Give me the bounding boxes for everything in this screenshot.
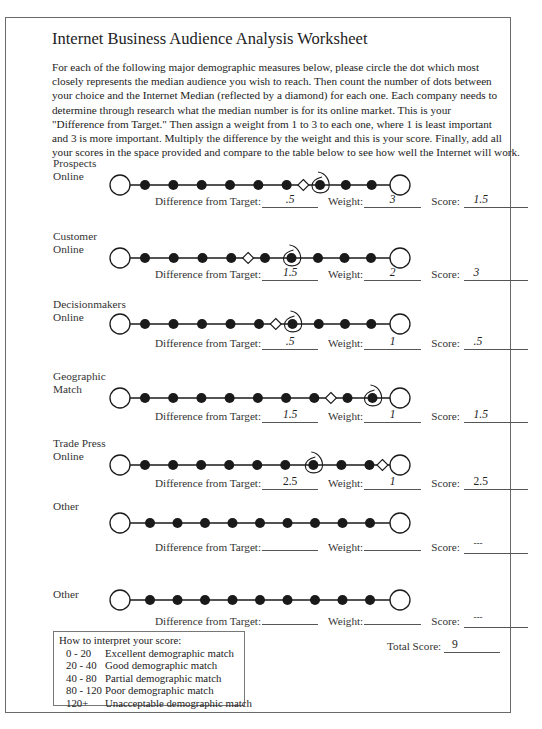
scale-dot bbox=[169, 319, 179, 329]
difference-field[interactable]: 1.5 bbox=[262, 268, 318, 281]
scale-dot bbox=[254, 319, 264, 329]
scale-dot bbox=[315, 180, 325, 190]
scale-end-open-circle bbox=[390, 455, 410, 475]
weight-field[interactable] bbox=[364, 538, 421, 551]
weight-field[interactable]: 1 bbox=[364, 477, 421, 490]
scale-dot bbox=[140, 460, 150, 470]
measure-label: Geographic Match bbox=[53, 370, 106, 396]
difference-field[interactable] bbox=[262, 538, 318, 551]
scale-dot bbox=[173, 595, 183, 605]
measure-label: Prospects Online bbox=[53, 157, 96, 183]
difference-field[interactable]: 2.5 bbox=[262, 477, 318, 490]
measure-row-decisionmakers-online: Decisionmakers Online Difference from Ta… bbox=[0, 301, 542, 371]
scale-dot bbox=[253, 180, 263, 190]
dot-scale[interactable] bbox=[108, 240, 412, 270]
dot-scale[interactable] bbox=[108, 306, 412, 336]
scale-dot bbox=[368, 393, 378, 403]
scale-end-open-circle bbox=[110, 314, 130, 334]
legend-row: 40 - 80Partial demographic match bbox=[59, 672, 244, 685]
scale-dot bbox=[145, 518, 155, 528]
scale-end-open-circle bbox=[110, 175, 130, 195]
legend-row: 20 - 40Good demographic match bbox=[59, 659, 244, 672]
scale-end-open-circle bbox=[390, 513, 410, 533]
scale-end-open-circle bbox=[390, 175, 410, 195]
legend-row: 80 - 120Poor demographic match bbox=[59, 684, 244, 697]
scale-dot bbox=[288, 319, 298, 329]
score-line: Difference from Target:1.5Weight:1Score:… bbox=[155, 410, 528, 423]
scale-dot bbox=[228, 595, 238, 605]
scale-dot bbox=[313, 253, 323, 263]
scale-graphic bbox=[108, 306, 412, 336]
scale-dot bbox=[341, 180, 351, 190]
scale-dot bbox=[340, 319, 350, 329]
scale-dot bbox=[197, 180, 207, 190]
weight-field[interactable]: 2 bbox=[364, 268, 421, 281]
dot-scale[interactable] bbox=[108, 167, 412, 197]
scale-dot bbox=[309, 393, 319, 403]
scale-dot bbox=[169, 253, 179, 263]
dot-scale[interactable] bbox=[108, 582, 412, 612]
worksheet-title: Internet Business Audience Analysis Work… bbox=[52, 29, 367, 49]
score-field[interactable]: --- bbox=[464, 541, 528, 554]
score-line: Difference from Target:.5Weight:1Score: … bbox=[155, 337, 528, 350]
scale-dot bbox=[255, 518, 265, 528]
scale-end-open-circle bbox=[390, 388, 410, 408]
weight-field[interactable]: 3 bbox=[364, 195, 421, 208]
difference-field[interactable]: .5 bbox=[262, 337, 318, 350]
total-score-field[interactable]: 9 bbox=[444, 640, 500, 653]
scale-dot bbox=[140, 319, 150, 329]
scale-dot bbox=[196, 393, 206, 403]
score-field[interactable]: --- bbox=[464, 615, 528, 628]
legend-row: 120+Unacceptable demographic match bbox=[59, 697, 244, 710]
scale-dot bbox=[364, 460, 374, 470]
scale-dot bbox=[228, 518, 238, 528]
scale-dot bbox=[338, 595, 348, 605]
scale-dot bbox=[366, 319, 376, 329]
scale-dot bbox=[225, 393, 235, 403]
scale-dot bbox=[197, 319, 207, 329]
measure-row-trade-press-online: Trade Press Online Difference from Targe… bbox=[0, 437, 542, 507]
score-field[interactable]: 1.5 bbox=[464, 195, 528, 208]
scale-dot bbox=[140, 393, 150, 403]
difference-field[interactable] bbox=[262, 612, 318, 625]
score-field[interactable]: 1.5 bbox=[464, 410, 528, 423]
internet-median-diamond-icon bbox=[377, 460, 388, 471]
difference-field[interactable]: 1.5 bbox=[262, 410, 318, 423]
score-field[interactable]: 2.5 bbox=[464, 477, 528, 490]
score-line: Difference from Target:2.5Weight:1Score:… bbox=[155, 477, 528, 490]
dot-scale[interactable] bbox=[108, 447, 412, 477]
score-field[interactable]: 3 bbox=[464, 268, 528, 281]
score-field[interactable]: .5 bbox=[464, 337, 528, 350]
dot-scale[interactable] bbox=[108, 380, 412, 410]
instruction-line: and 3 is more important. Multiply the di… bbox=[52, 131, 512, 145]
scale-end-open-circle bbox=[110, 248, 130, 268]
scale-dot bbox=[314, 319, 324, 329]
scale-end-open-circle bbox=[390, 314, 410, 334]
scale-dot bbox=[225, 180, 235, 190]
scale-dot bbox=[255, 595, 265, 605]
instructions-paragraph: For each of the following major demograp… bbox=[52, 60, 512, 159]
scale-dot bbox=[226, 253, 236, 263]
measure-row-other-1: Other Difference from Target:Weight:Scor… bbox=[0, 500, 542, 570]
instruction-line: your choice and the Internet Median (ref… bbox=[52, 88, 512, 102]
scale-dot bbox=[343, 393, 353, 403]
scale-dot bbox=[365, 595, 375, 605]
measure-label: Customer Online bbox=[53, 230, 97, 256]
legend-heading: How to interpret your score: bbox=[59, 634, 244, 647]
scale-dot bbox=[140, 253, 150, 263]
scale-end-open-circle bbox=[110, 388, 130, 408]
score-line: Difference from Target:Weight:Score: --- bbox=[155, 612, 528, 628]
weight-field[interactable]: 1 bbox=[364, 337, 421, 350]
weight-field[interactable] bbox=[364, 612, 421, 625]
measure-label: Trade Press Online bbox=[53, 437, 106, 463]
internet-median-diamond-icon bbox=[270, 319, 281, 330]
scale-dot bbox=[168, 180, 178, 190]
instruction-line: "Difference from Target." Then assign a … bbox=[52, 117, 512, 131]
difference-field[interactable]: .5 bbox=[262, 195, 318, 208]
scale-dot bbox=[283, 595, 293, 605]
weight-field[interactable]: 1 bbox=[364, 410, 421, 423]
scale-dot bbox=[280, 460, 290, 470]
scale-graphic bbox=[108, 505, 412, 535]
dot-scale[interactable] bbox=[108, 505, 412, 535]
scale-dot bbox=[365, 518, 375, 528]
